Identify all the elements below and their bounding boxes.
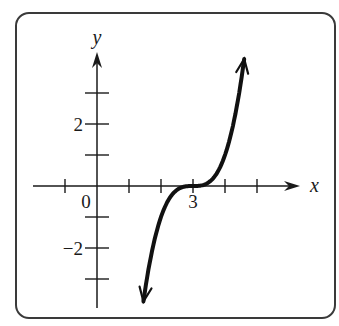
graph-frame <box>16 13 335 318</box>
x-tick-label: 0 <box>81 191 91 212</box>
function-graph: 032−2xy <box>0 0 339 326</box>
x-tick-label: 3 <box>188 191 198 212</box>
y-tick-label: −2 <box>63 238 83 259</box>
y-tick-label: 2 <box>74 114 84 135</box>
y-axis-label: y <box>91 26 102 49</box>
x-axis-label: x <box>309 174 319 196</box>
